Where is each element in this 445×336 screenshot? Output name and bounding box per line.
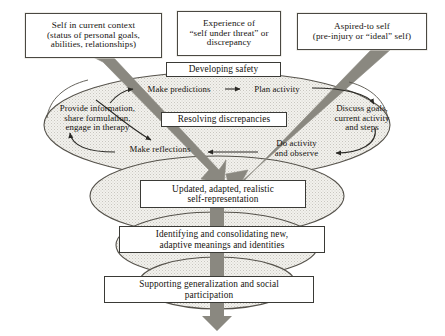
cycle-node-plan-activity: Plan activity	[243, 85, 311, 95]
cycle-node-do-activity-and-observe: Do activity and observe	[262, 139, 331, 158]
cycle-node-make-predictions: Make predictions	[136, 85, 222, 95]
cycle-node-provide-information: Provide information, share formulation, …	[40, 104, 155, 133]
phase-box-developing-safety: Developing safety	[166, 62, 281, 77]
context-box-experience-of-self-under-threat: Experience of “self under threat” or dis…	[177, 11, 281, 56]
context-box-self-in-current-context: Self in current context (status of perso…	[25, 13, 162, 58]
phase-box-supporting-generalization: Supporting generalization and social par…	[104, 276, 314, 303]
diagram-canvas: Self in current context (status of perso…	[0, 0, 445, 336]
phase-box-resolving-discrepancies: Resolving discrepancies	[161, 112, 287, 127]
phase-box-identifying-and-consolidating: Identifying and consolidating new, adapt…	[119, 226, 325, 253]
band-arrow-mid-2	[210, 253, 224, 277]
context-box-aspired-to-self: Aspired-to self (pre-injury or “ideal” s…	[297, 13, 427, 50]
phase-box-updated-self-representation: Updated, adapted, realistic self-represe…	[140, 180, 306, 208]
cycle-node-discuss-goals: Discuss goals, current activity and step…	[322, 104, 402, 133]
band-arrow-mid-1	[210, 208, 224, 227]
cycle-node-make-reflections: Make reflections	[118, 145, 202, 155]
